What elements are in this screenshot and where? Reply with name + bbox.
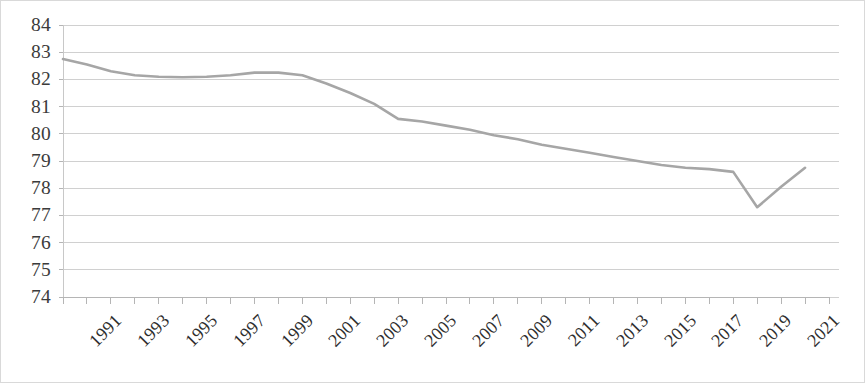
- y-axis-tick-label: 76: [7, 233, 51, 253]
- chart-container: 8483828180797877767574 19911993199519971…: [0, 0, 865, 383]
- x-tick-marks-group: [63, 297, 829, 304]
- y-axis-tick-label: 82: [7, 69, 51, 89]
- y-axis-tick-label: 79: [7, 151, 51, 171]
- y-axis-tick-label: 77: [7, 205, 51, 225]
- data-line: [63, 59, 805, 207]
- y-axis-tick-label: 81: [7, 97, 51, 117]
- gridlines-group: [63, 25, 839, 297]
- y-axis-tick-label: 84: [7, 15, 51, 35]
- y-axis-tick-label: 78: [7, 178, 51, 198]
- y-axis-tick-label: 74: [7, 287, 51, 307]
- y-axis-tick-label: 80: [7, 124, 51, 144]
- y-axis-tick-label: 75: [7, 260, 51, 280]
- y-axis-tick-label: 83: [7, 42, 51, 62]
- data-series-group: [63, 59, 805, 207]
- y-tick-marks-group: [59, 25, 63, 297]
